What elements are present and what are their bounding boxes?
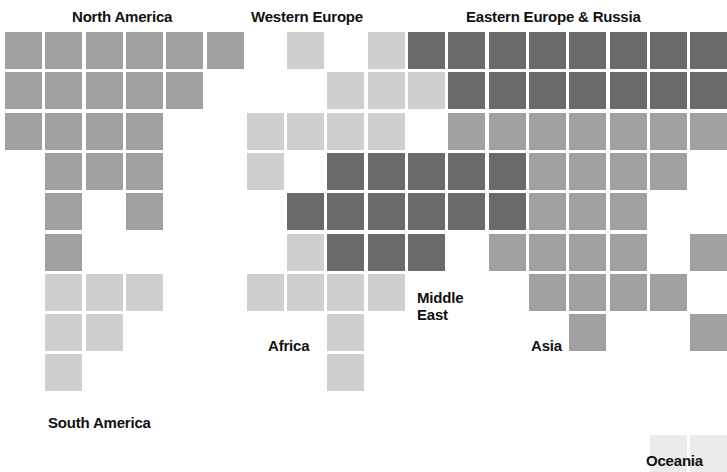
map-cell	[448, 193, 485, 230]
map-cell	[610, 113, 647, 150]
map-cell	[448, 72, 485, 109]
map-cell	[690, 32, 727, 69]
region-label-oceania: Oceania	[646, 452, 703, 469]
map-cell	[5, 72, 42, 109]
region-label-middle-east: Middle East	[417, 289, 463, 323]
map-cell	[650, 113, 687, 150]
map-cell	[126, 193, 163, 230]
map-cell	[207, 32, 244, 69]
map-cell	[45, 32, 82, 69]
map-cell	[408, 153, 445, 190]
map-cell	[368, 234, 405, 271]
map-cell	[610, 153, 647, 190]
map-cell	[569, 72, 606, 109]
map-cell	[45, 354, 82, 391]
map-cell	[448, 153, 485, 190]
map-cell	[529, 234, 566, 271]
map-cell	[690, 234, 727, 271]
map-cell	[368, 153, 405, 190]
map-cell	[408, 234, 445, 271]
map-cell	[650, 274, 687, 311]
map-cell	[610, 234, 647, 271]
map-cell	[126, 72, 163, 109]
map-cell	[529, 32, 566, 69]
map-cell	[45, 113, 82, 150]
map-cell	[448, 113, 485, 150]
map-cell	[45, 274, 82, 311]
map-cell	[569, 274, 606, 311]
map-cell	[690, 113, 727, 150]
map-cell	[287, 113, 324, 150]
map-cell	[368, 72, 405, 109]
map-cell	[287, 274, 324, 311]
map-cell	[166, 32, 203, 69]
map-cell	[86, 153, 123, 190]
region-label-western-europe: Western Europe	[251, 8, 363, 25]
map-cell	[327, 354, 364, 391]
map-cell	[45, 314, 82, 351]
map-cell	[610, 193, 647, 230]
map-cell	[45, 234, 82, 271]
map-cell	[327, 274, 364, 311]
map-cell	[408, 32, 445, 69]
map-cell	[45, 72, 82, 109]
region-label-south-america: South America	[48, 414, 151, 431]
map-cell	[126, 274, 163, 311]
map-cell	[327, 314, 364, 351]
map-cell	[86, 32, 123, 69]
region-label-asia: Asia	[531, 337, 562, 354]
map-cell	[327, 234, 364, 271]
map-cell	[86, 113, 123, 150]
map-cell	[368, 193, 405, 230]
map-cell	[489, 32, 526, 69]
map-cell	[287, 32, 324, 69]
map-cell	[529, 153, 566, 190]
map-cell	[368, 32, 405, 69]
region-label-eastern-europe-russia: Eastern Europe & Russia	[466, 8, 641, 25]
map-cell	[650, 72, 687, 109]
map-cell	[569, 314, 606, 351]
map-cell	[569, 193, 606, 230]
map-cell	[86, 72, 123, 109]
map-cell	[287, 193, 324, 230]
map-cell	[327, 72, 364, 109]
map-cell	[327, 153, 364, 190]
region-label-north-america: North America	[72, 8, 172, 25]
map-cell	[489, 72, 526, 109]
map-cell	[408, 193, 445, 230]
map-cell	[247, 153, 284, 190]
map-cell	[529, 193, 566, 230]
map-cell	[368, 274, 405, 311]
map-cell	[448, 32, 485, 69]
map-cell	[126, 113, 163, 150]
map-cell	[45, 153, 82, 190]
map-cell	[529, 113, 566, 150]
map-cell	[408, 72, 445, 109]
map-cell	[489, 153, 526, 190]
map-cell	[610, 274, 647, 311]
region-label-africa: Africa	[268, 337, 309, 354]
map-cell	[569, 234, 606, 271]
map-cell	[247, 113, 284, 150]
map-cell	[247, 274, 284, 311]
map-cell	[489, 113, 526, 150]
map-cell	[690, 72, 727, 109]
map-cell	[5, 32, 42, 69]
map-cell	[86, 274, 123, 311]
map-cell	[45, 193, 82, 230]
map-cell	[529, 72, 566, 109]
map-cell	[690, 314, 727, 351]
map-cell	[489, 193, 526, 230]
map-cell	[610, 72, 647, 109]
map-cell	[126, 153, 163, 190]
map-cell	[86, 314, 123, 351]
map-cell	[650, 153, 687, 190]
map-cell	[569, 113, 606, 150]
map-cell	[327, 113, 364, 150]
map-cell	[610, 32, 647, 69]
map-cell	[327, 193, 364, 230]
map-cell	[529, 274, 566, 311]
map-cell	[569, 32, 606, 69]
map-cell	[5, 113, 42, 150]
